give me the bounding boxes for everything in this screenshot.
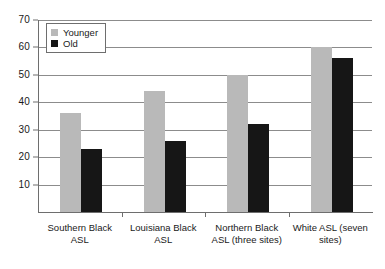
y-tick-label: 20 bbox=[18, 152, 30, 162]
y-tick-mark-10 bbox=[33, 184, 38, 185]
bar-old bbox=[332, 58, 353, 212]
y-tick-mark-40 bbox=[33, 102, 38, 103]
x-category-label-line: ASL (three sites) bbox=[205, 234, 289, 246]
y-tick-label: 70 bbox=[18, 15, 30, 25]
x-category-label: White ASL (sevensites) bbox=[289, 222, 373, 246]
x-category-label: Northern BlackASL (three sites) bbox=[205, 222, 289, 246]
y-tick-label: 30 bbox=[18, 125, 30, 135]
y-tick-mark-20 bbox=[33, 157, 38, 158]
legend-item: Younger bbox=[51, 27, 98, 38]
legend-label: Old bbox=[63, 38, 78, 49]
bar-group bbox=[205, 20, 289, 212]
y-tick-mark-60 bbox=[33, 47, 38, 48]
x-category-label-line: ASL bbox=[122, 234, 206, 246]
y-tick-label: 50 bbox=[18, 70, 30, 80]
x-category-label-line: ASL bbox=[38, 234, 122, 246]
y-tick-mark-30 bbox=[33, 129, 38, 130]
x-category-label-line: White ASL (seven bbox=[289, 222, 373, 234]
x-category-label-line: sites) bbox=[289, 234, 373, 246]
bar-group bbox=[289, 20, 373, 212]
y-tick-mark-70 bbox=[33, 20, 38, 21]
x-tick-mark bbox=[122, 212, 123, 217]
chart-legend: YoungerOld bbox=[46, 23, 106, 53]
y-tick-mark-50 bbox=[33, 74, 38, 75]
x-category-label-line: Northern Black bbox=[205, 222, 289, 234]
y-tick-label: 10 bbox=[18, 180, 30, 190]
bar-younger bbox=[227, 75, 248, 212]
bar-younger bbox=[311, 47, 332, 212]
legend-swatch-icon bbox=[51, 29, 58, 36]
legend-item: Old bbox=[51, 38, 98, 49]
bar-younger bbox=[144, 91, 165, 212]
x-category-label: Southern BlackASL bbox=[38, 222, 122, 246]
x-tick-mark bbox=[289, 212, 290, 217]
x-category-label-line: Louisiana Black bbox=[122, 222, 206, 234]
bar-chart-figure: 70605040302010 Southern BlackASLLouisian… bbox=[0, 0, 385, 269]
y-axis-line bbox=[38, 20, 39, 213]
legend-swatch-icon bbox=[51, 40, 58, 47]
x-category-label: Louisiana BlackASL bbox=[122, 222, 206, 246]
legend-label: Younger bbox=[63, 27, 98, 38]
x-tick-mark bbox=[205, 212, 206, 217]
bar-younger bbox=[60, 113, 81, 212]
bar-old bbox=[248, 124, 269, 212]
x-category-label-line: Southern Black bbox=[38, 222, 122, 234]
bar-old bbox=[165, 141, 186, 212]
y-tick-label: 40 bbox=[18, 97, 30, 107]
bar-old bbox=[81, 149, 102, 212]
bar-group bbox=[122, 20, 206, 212]
y-tick-label: 60 bbox=[18, 42, 30, 52]
